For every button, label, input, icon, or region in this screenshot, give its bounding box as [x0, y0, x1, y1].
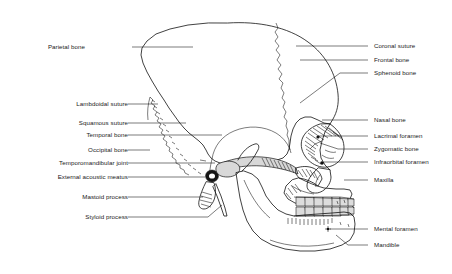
label-squamous-suture: Squamous suture [79, 119, 128, 126]
nasal-region [307, 124, 331, 193]
upper-teeth [294, 197, 354, 206]
label-temporomandibular-joint: Temporomandibular joint [59, 159, 128, 166]
skull-diagram: Parietal bone Lambdoidal suture Squamous… [0, 0, 452, 274]
coronal-suture [275, 23, 290, 150]
label-frontal-bone: Frontal bone [374, 56, 409, 63]
label-mental-foramen: Mental foramen [374, 225, 418, 232]
label-nasal-bone: Nasal bone [374, 116, 406, 123]
cranium-outline [141, 23, 338, 164]
label-sphenoid-bone: Sphenoid bone [374, 69, 416, 76]
occipital-region [148, 97, 150, 120]
label-parietal-bone: Parietal bone [48, 43, 85, 50]
label-mastoid-process: Mastoid process [82, 193, 128, 200]
label-coronal-suture: Coronal suture [374, 42, 415, 49]
label-lambdoidal-suture: Lambdoidal suture [76, 100, 128, 107]
mandible-alveolar-hatching [288, 218, 332, 225]
label-external-acoustic-meatus: External acoustic meatus [58, 173, 128, 180]
label-zygomatic-bone: Zygomatic bone [374, 145, 419, 152]
label-infraorbital-foramen: Infraorbital foramen [374, 158, 429, 165]
label-maxilla: Maxilla [374, 176, 394, 183]
mastoid-process [199, 182, 216, 209]
foramina-markers [316, 135, 331, 232]
label-occipital-bone: Occipital bone [88, 146, 128, 153]
label-temporal-bone: Temporal bone [86, 131, 128, 138]
label-lacrimal-foramen: Lacrimal foramen [374, 132, 423, 139]
label-styloid-process: Styloid process [85, 213, 128, 220]
leader-lines-left [128, 47, 222, 217]
lower-teeth [294, 207, 354, 216]
label-mandible: Mandible [374, 241, 400, 248]
